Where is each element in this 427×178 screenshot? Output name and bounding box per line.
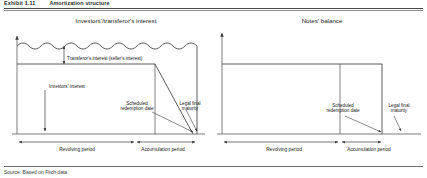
right-panel-graph [217, 33, 421, 142]
label-legal-final-maturity-right: Legal final maturity [384, 103, 414, 114]
left-total-receivables-wavy-line [17, 43, 197, 49]
label-scheduled-redemption-date-right: Scheduled redemption date [322, 103, 364, 114]
axis-label-accumulation-period-right: Accumulation period [338, 147, 400, 153]
right-scheduled-redemption-leader [345, 116, 381, 132]
footer-rule [4, 166, 423, 167]
exhibit-figure: Exhibit 1.11 Amortization structure Inve… [0, 0, 427, 178]
axis-label-revolving-period-left: Revolving period [18, 147, 136, 153]
axis-label-revolving-period-right: Revolving period [224, 147, 344, 153]
axis-label-accumulation-period-left: Accumulation period [132, 147, 194, 153]
label-scheduled-redemption-date-left: Scheduled redemption date [120, 101, 154, 112]
label-transferor-interest: Transferor's interest (seller's interest… [67, 56, 142, 61]
label-investors-interest: Investors' interest [49, 84, 85, 89]
left-investors-interest-amortisation-slope [155, 64, 193, 134]
right-legal-final-maturity-leader [394, 116, 401, 131]
left-panel-graph [12, 36, 205, 142]
label-legal-final-maturity-left: Legal final maturity [175, 101, 205, 112]
left-legal-final-maturity-leader [186, 110, 197, 131]
figure-source-note: Source: Based on Fitch data [4, 169, 67, 175]
